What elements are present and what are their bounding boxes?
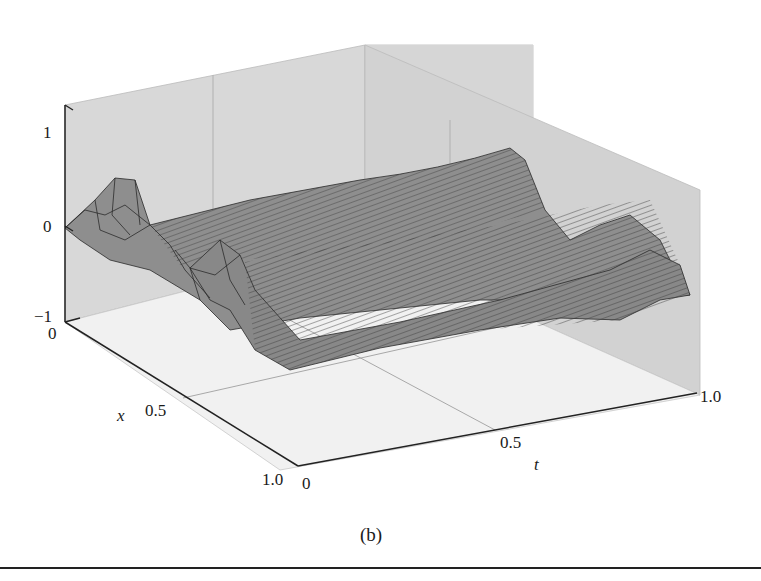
t-axis-label: t [534,456,539,473]
x-tick-label-1-0: 1.0 [262,471,283,488]
x-tick-label-0: 0 [48,325,57,342]
x-tick-label-0-5: 0.5 [145,402,166,419]
z-tick-label-minus1: −1 [34,308,52,325]
t-tick-label-0: 0 [302,475,311,492]
z-tick-label-0: 0 [43,218,52,235]
x-axis-label: x [117,407,125,424]
surface-plot-figure: 1 0 −1 0 0.5 1.0 x 0 0.5 1.0 t (b) [0,0,761,581]
t-tick-label-0-5: 0.5 [500,434,521,451]
figure-caption: (b) [360,524,382,546]
bottom-rule [0,567,761,569]
t-tick-label-1-0: 1.0 [700,388,721,405]
z-tick-label-1: 1 [43,124,52,141]
surface-plot-svg [0,0,761,581]
